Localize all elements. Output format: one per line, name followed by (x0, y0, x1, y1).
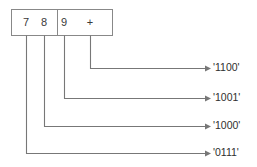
cell-char-8: 8 (41, 16, 47, 28)
cell-char-9: 9 (61, 16, 67, 28)
label-1100: '1100' (213, 61, 240, 73)
arrow-icon (205, 151, 211, 157)
cell-char-plus: + (87, 16, 93, 28)
arrow-icon (205, 66, 211, 72)
diagram-canvas: 7 8 9 + '1100' '1001' '1000' '0111' (0, 0, 257, 167)
label-1000: '1000' (213, 119, 240, 131)
connector-1000: '1000' (45, 36, 241, 131)
connector-1001-line (65, 36, 206, 99)
connector-1100-line (91, 36, 206, 69)
cell-char-7: 7 (23, 16, 29, 28)
arrow-icon (205, 124, 211, 130)
connector-1100: '1100' (91, 36, 240, 73)
connector-0111-line (27, 36, 206, 154)
arrow-icon (205, 96, 211, 102)
connector-1000-line (45, 36, 206, 127)
label-0111: '0111' (213, 146, 239, 158)
diagram-svg: 7 8 9 + '1100' '1001' '1000' '0111' (0, 0, 257, 167)
label-1001: '1001' (213, 91, 240, 103)
